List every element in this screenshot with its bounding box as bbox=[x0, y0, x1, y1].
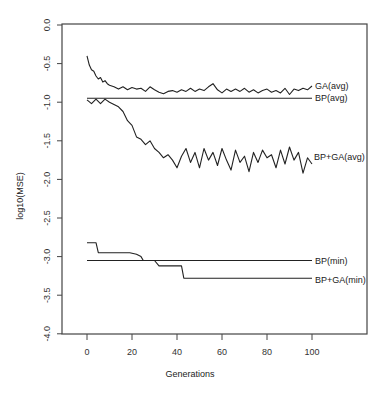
chart-canvas: 0.0-0.5-1.0-1.5-2.0-2.5-3.0-3.5-4.0 0204… bbox=[0, 0, 387, 396]
y-axis-title: log10(MSE) bbox=[15, 172, 25, 220]
label-bpga-avg: BP+GA(avg) bbox=[314, 152, 365, 162]
y-tick-label: -2.0 bbox=[42, 172, 52, 188]
y-tick-label: -3.5 bbox=[42, 287, 52, 303]
y-tick-label: -2.5 bbox=[42, 210, 52, 226]
plot-frame bbox=[62, 24, 367, 334]
ga-avg-line bbox=[87, 56, 312, 95]
label-ga-avg: GA(avg) bbox=[315, 81, 349, 91]
x-tick-label: 100 bbox=[304, 347, 319, 357]
label-bp-avg: BP(avg) bbox=[315, 93, 348, 103]
series-group bbox=[87, 56, 312, 278]
x-tick-label: 60 bbox=[217, 347, 227, 357]
bpga-avg-line bbox=[87, 99, 312, 173]
x-axis-title: Generations bbox=[165, 369, 215, 379]
y-tick-label: -4.0 bbox=[42, 326, 52, 342]
y-tick-label: -1.5 bbox=[42, 133, 52, 149]
y-tick-label: -0.5 bbox=[42, 56, 52, 72]
y-tick-label: 0.0 bbox=[42, 19, 52, 32]
x-tick-label: 0 bbox=[84, 347, 89, 357]
y-tick-label: -3.0 bbox=[42, 249, 52, 265]
label-bpga-min: BP+GA(min) bbox=[315, 275, 366, 285]
y-axis: 0.0-0.5-1.0-1.5-2.0-2.5-3.0-3.5-4.0 bbox=[42, 19, 62, 342]
y-tick-label: -1.0 bbox=[42, 94, 52, 110]
x-tick-label: 40 bbox=[172, 347, 182, 357]
x-axis: 020406080100 bbox=[84, 334, 319, 357]
x-tick-label: 80 bbox=[262, 347, 272, 357]
label-bp-min: BP(min) bbox=[315, 256, 348, 266]
x-tick-label: 20 bbox=[127, 347, 137, 357]
